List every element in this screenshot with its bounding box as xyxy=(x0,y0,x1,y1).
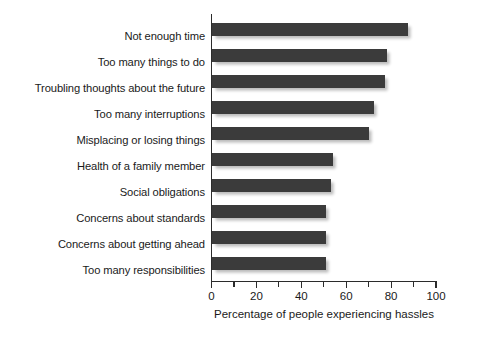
x-tick-50 xyxy=(323,282,324,287)
plot-area: Not enough time Too many things to do Tr… xyxy=(0,0,480,338)
x-tick-label-20: 20 xyxy=(250,290,263,302)
bar-slot xyxy=(212,75,480,101)
category-label: Concerns about standards xyxy=(0,205,205,231)
bar-slot xyxy=(212,231,480,257)
bar xyxy=(212,23,408,36)
x-tick-label-100: 100 xyxy=(426,290,445,302)
x-tick-80 xyxy=(391,282,392,288)
bar xyxy=(212,231,326,244)
bar-slot xyxy=(212,205,480,231)
bar-slot xyxy=(212,153,480,179)
x-tick-label-40: 40 xyxy=(295,290,308,302)
x-tick-10 xyxy=(233,282,234,287)
x-tick-20 xyxy=(256,282,257,288)
x-tick-100 xyxy=(435,282,436,288)
bar xyxy=(212,257,326,270)
bar-slot xyxy=(212,101,480,127)
category-label: Misplacing or losing things xyxy=(0,127,205,153)
category-label: Too many interruptions xyxy=(0,101,205,127)
category-label: Not enough time xyxy=(0,23,205,49)
category-axis-labels: Not enough time Too many things to do Tr… xyxy=(0,23,205,283)
category-label: Too many responsibilities xyxy=(0,257,205,283)
bar-slot xyxy=(212,23,480,49)
x-tick-label-0: 0 xyxy=(208,290,214,302)
x-tick-60 xyxy=(346,282,347,288)
bar xyxy=(212,49,387,62)
bar-slot xyxy=(212,257,480,283)
category-label: Health of a family member xyxy=(0,153,205,179)
category-label: Troubling thoughts about the future xyxy=(0,75,205,101)
category-label: Concerns about getting ahead xyxy=(0,231,205,257)
bar xyxy=(212,179,331,192)
bar-chart-figure: Not enough time Too many things to do Tr… xyxy=(0,0,480,338)
bar-slot xyxy=(212,127,480,153)
bar xyxy=(212,205,326,218)
x-tick-30 xyxy=(278,282,279,287)
category-label: Social obligations xyxy=(0,179,205,205)
x-tick-0 xyxy=(211,282,212,288)
x-tick-90 xyxy=(413,282,414,287)
bar xyxy=(212,127,369,140)
bar xyxy=(212,153,333,166)
bar xyxy=(212,75,385,88)
category-label: Too many things to do xyxy=(0,49,205,75)
y-axis-line xyxy=(211,14,212,281)
bar-slot xyxy=(212,179,480,205)
bar-slot xyxy=(212,49,480,75)
bar xyxy=(212,101,374,114)
x-axis-title: Percentage of people experiencing hassle… xyxy=(211,308,437,320)
x-tick-40 xyxy=(301,282,302,288)
x-tick-label-60: 60 xyxy=(340,290,353,302)
bar-series xyxy=(212,23,480,283)
x-tick-label-80: 80 xyxy=(385,290,398,302)
x-tick-70 xyxy=(368,282,369,287)
